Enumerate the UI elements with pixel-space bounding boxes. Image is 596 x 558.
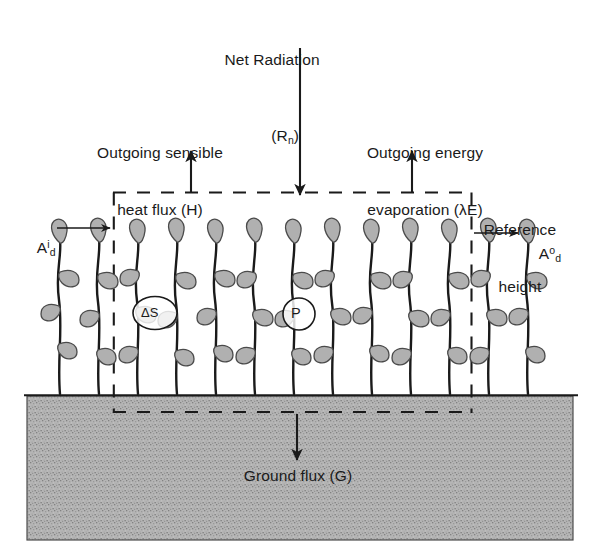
- sensible-heat-flux-label: Outgoing sensible heat flux (H): [72, 105, 248, 257]
- sensible-heat-line2: heat flux (H): [72, 200, 248, 219]
- reference-height-line2: height: [455, 277, 585, 296]
- advection-out-base: A: [539, 245, 549, 262]
- photosynthesis-symbol-label: P: [291, 304, 301, 323]
- sensible-heat-line1: Outgoing sensible: [72, 143, 248, 162]
- net-radiation-line1: Net Radiation: [188, 50, 356, 69]
- net-radiation-close: ): [294, 127, 299, 144]
- reference-height-label: Reference height: [455, 182, 585, 334]
- storage-symbol-label: ΔS: [141, 303, 159, 322]
- advection-in-subscript: d: [50, 246, 56, 258]
- reference-height-line1: Reference: [455, 220, 585, 239]
- advection-out-label: Aod: [522, 222, 561, 287]
- net-radiation-base: (R: [271, 127, 288, 144]
- advection-in-label: Aid: [20, 216, 56, 281]
- advection-in-base: A: [37, 239, 47, 256]
- ground-flux-label: Ground flux (G): [183, 466, 413, 485]
- energy-balance-diagram: Net Radiation (Rn) Outgoing sensible hea…: [0, 0, 596, 558]
- advection-out-subscript: d: [555, 252, 561, 264]
- evaporation-line1: Outgoing energy: [330, 143, 520, 162]
